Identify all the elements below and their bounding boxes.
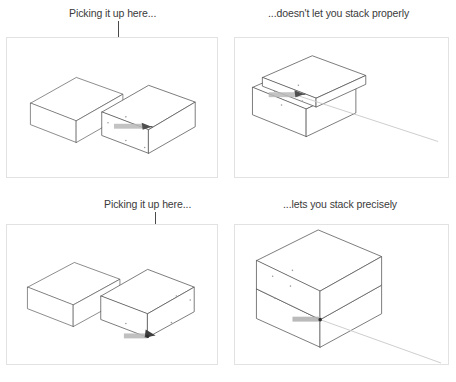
drawing-two-boxes-grab-face <box>7 38 217 177</box>
caption-bottom-right: ...lets you stack precisely <box>283 197 397 211</box>
panel-bottom-left <box>6 224 218 365</box>
caption-bottom-left: Picking it up here... <box>104 197 191 211</box>
tooltip-endpoint-in-group <box>292 317 322 322</box>
panel-top-left <box>6 37 218 178</box>
drawing-two-boxes-grab-corner <box>7 225 217 364</box>
caption-top-right: ...doesn't let you stack properly <box>268 6 409 20</box>
inference-line <box>320 320 441 363</box>
caption-top-left: Picking it up here... <box>69 6 156 20</box>
figure-row-top: Picking it up here... ...doesn't let you… <box>0 0 456 191</box>
panel-top-right <box>234 37 449 178</box>
stacking-illustration-figure: Picking it up here... ...doesn't let you… <box>0 0 456 382</box>
panel-bottom-right <box>234 224 449 365</box>
drawing-precise-stack <box>235 225 448 364</box>
drawing-misaligned-stack <box>235 38 448 177</box>
